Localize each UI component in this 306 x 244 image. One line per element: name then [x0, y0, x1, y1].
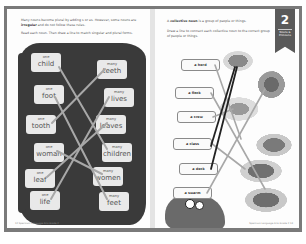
footer-text: Spectrum Language Arts Grade 2: [19, 222, 59, 225]
footer-text: Spectrum Language Arts Grade 2: [249, 222, 289, 225]
right-page: 2 Nouns & Pronouns A collective noun is …: [155, 9, 299, 228]
right-footer: Spectrum Language Arts Grade 2 13: [249, 222, 293, 225]
match-lines: [7, 9, 150, 228]
left-footer: 12 Spectrum Language Arts Grade 2: [15, 222, 59, 225]
page-number: 13: [290, 222, 293, 225]
left-page: Many nouns become plural by adding s or …: [7, 9, 150, 228]
connect-lines: [155, 9, 299, 228]
workbook-spread: Many nouns become plural by adding s or …: [4, 6, 302, 232]
page-number: 12: [15, 222, 18, 225]
